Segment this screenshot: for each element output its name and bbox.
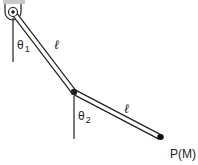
end-point-label: P(M) bbox=[170, 147, 196, 161]
pivot-center-1 bbox=[11, 10, 15, 14]
end-mass-point bbox=[157, 134, 164, 140]
rod2-length-label: ℓ bbox=[124, 101, 130, 116]
elbow-joint bbox=[71, 89, 77, 95]
theta2-label: θ2 bbox=[78, 109, 91, 125]
rod1-length-label: ℓ bbox=[54, 37, 60, 52]
double-pendulum-diagram: θ1 ℓ θ2 ℓ P(M) bbox=[0, 0, 198, 165]
theta1-label: θ1 bbox=[17, 38, 30, 54]
ceiling-support bbox=[3, 0, 25, 4]
rod-1 bbox=[13, 12, 74, 92]
